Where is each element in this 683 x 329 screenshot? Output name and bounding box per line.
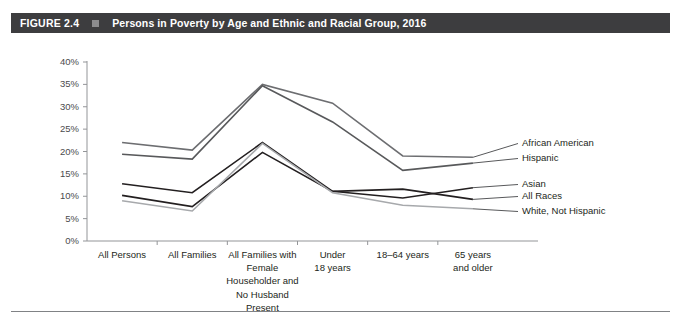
x-tick-label: 18 years — [314, 262, 351, 273]
x-tick-label: 18–64 years — [377, 249, 430, 260]
x-axis — [87, 241, 538, 245]
leader-line-1 — [473, 159, 518, 164]
leader-line-4 — [473, 209, 518, 212]
series-leader-lines — [473, 144, 518, 212]
x-tick-label: 65 years — [455, 249, 492, 260]
x-tick-label: All Families — [168, 249, 217, 260]
y-tick-label: 25% — [60, 123, 80, 134]
series-label-0: African American — [522, 137, 594, 148]
x-tick-label: Householder and — [226, 275, 298, 286]
series-lines — [122, 84, 473, 211]
x-tick-label: and older — [453, 262, 493, 273]
series-labels: African AmericanHispanicAsianAll RacesWh… — [522, 137, 606, 216]
series-label-2: Asian — [522, 178, 546, 189]
series-line-2 — [122, 143, 473, 198]
x-tick-label: All Families with — [228, 249, 296, 260]
series-line-4 — [122, 143, 473, 211]
series-line-1 — [122, 86, 473, 171]
y-tick-label: 0% — [65, 235, 79, 246]
leader-line-0 — [473, 144, 518, 158]
leader-line-2 — [473, 185, 518, 188]
x-tick-label: All Persons — [98, 249, 146, 260]
y-tick-label: 35% — [60, 78, 80, 89]
y-axis: 0%5%10%15%20%25%30%35%40% — [60, 56, 87, 246]
figure-bottom-rule — [11, 311, 670, 312]
x-tick-label: Female — [247, 262, 279, 273]
y-tick-label: 10% — [60, 190, 80, 201]
leader-line-3 — [473, 197, 518, 200]
figure-container: FIGURE 2.4 Persons in Poverty by Age and… — [0, 0, 683, 329]
x-tick-label: Under — [320, 249, 346, 260]
series-line-0 — [122, 84, 473, 157]
series-label-4: White, Not Hispanic — [522, 205, 606, 216]
y-tick-label: 15% — [60, 168, 80, 179]
series-label-1: Hispanic — [522, 152, 559, 163]
y-tick-label: 30% — [60, 101, 80, 112]
chart-area: 0%5%10%15%20%25%30%35%40% African Americ… — [0, 0, 683, 329]
line-chart: 0%5%10%15%20%25%30%35%40% African Americ… — [0, 0, 683, 329]
series-line-3 — [122, 152, 473, 206]
x-axis-labels: All PersonsAll FamiliesAll Families with… — [98, 249, 493, 313]
series-label-3: All Races — [522, 190, 562, 201]
y-tick-label: 20% — [60, 146, 80, 157]
y-tick-label: 40% — [60, 56, 80, 67]
y-tick-label: 5% — [65, 213, 79, 224]
x-tick-label: No Husband — [236, 289, 289, 300]
